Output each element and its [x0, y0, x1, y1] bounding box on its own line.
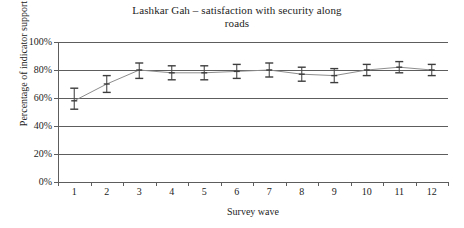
x-axis-tick-label: 3: [124, 186, 154, 197]
data-series-layer: [58, 42, 448, 182]
y-axis-tick-label: 40%: [16, 120, 52, 131]
y-axis-tick-label: 0%: [16, 176, 52, 187]
data-point-markers-group: [71, 67, 435, 101]
y-axis-tick-label: 80%: [16, 64, 52, 75]
x-axis-tick-label: 10: [352, 186, 382, 197]
x-axis-tick-label: 5: [189, 186, 219, 197]
chart-figure: Lashkar Gah – satisfaction with security…: [0, 0, 464, 228]
x-axis-tick-label: 11: [384, 186, 414, 197]
y-axis-tick-label: 60%: [16, 92, 52, 103]
x-axis-tick-label: 12: [417, 186, 447, 197]
y-axis-tick-label: 100%: [16, 36, 52, 47]
x-axis-tick-label: 1: [59, 186, 89, 197]
chart-title-line-2: roads: [72, 17, 402, 30]
chart-title-line-1: Lashkar Gah – satisfaction with security…: [72, 4, 402, 17]
x-axis-tick-label: 2: [92, 186, 122, 197]
x-axis-tick-mark: [448, 182, 449, 186]
x-axis-tick-label: 8: [287, 186, 317, 197]
y-axis-tick-label: 20%: [16, 148, 52, 159]
plot-area: [58, 42, 448, 182]
x-axis-title: Survey wave: [58, 206, 448, 217]
x-axis-tick-label: 9: [319, 186, 349, 197]
x-axis-tick-label: 7: [254, 186, 284, 197]
x-axis-tick-label: 6: [222, 186, 252, 197]
series-line: [74, 67, 432, 101]
x-axis-tick-label: 4: [157, 186, 187, 197]
chart-title: Lashkar Gah – satisfaction with security…: [72, 4, 402, 30]
